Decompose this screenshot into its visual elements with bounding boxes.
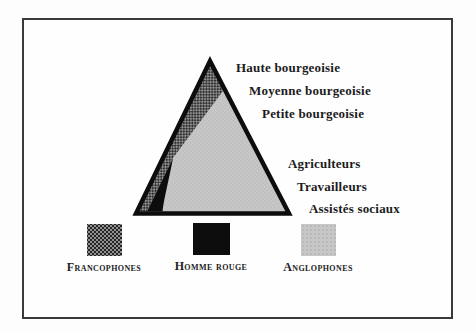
francophones-label: Francophones	[67, 261, 141, 273]
anglophones-swatch	[301, 224, 336, 256]
class-label-travailleurs: Travailleurs	[297, 180, 367, 194]
class-label-agriculteurs: Agriculteurs	[288, 157, 360, 171]
pyramid-diagram	[0, 0, 476, 332]
homme-rouge-label: Homme rouge	[175, 260, 248, 272]
legend-item-francophones: Francophones	[49, 224, 159, 273]
class-label-assistes-sociaux: Assistés sociaux	[309, 202, 400, 216]
anglophones-label: Anglophones	[283, 261, 353, 273]
francophones-swatch	[87, 224, 122, 256]
legend-item-homme-rouge: Homme rouge	[156, 223, 266, 272]
class-label-moyenne-bourgeoisie: Moyenne bourgeoisie	[249, 84, 371, 98]
homme-rouge-swatch	[193, 223, 230, 255]
class-label-petite-bourgeoisie: Petite bourgeoisie	[262, 107, 364, 121]
class-label-haute-bourgeoisie: Haute bourgeoisie	[236, 61, 340, 75]
figure-canvas: Haute bourgeoisie Moyenne bourgeoisie Pe…	[0, 0, 476, 332]
legend-item-anglophones: Anglophones	[263, 224, 373, 273]
